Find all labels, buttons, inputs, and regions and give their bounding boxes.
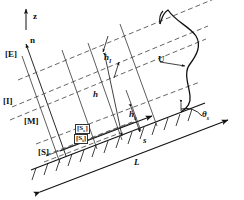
Si-close: ] (84, 134, 86, 142)
n-axis-label: n (30, 36, 35, 45)
theta-subscript: s (207, 115, 209, 121)
hs-dimension-label: hs (129, 110, 136, 121)
slope-surface-line (31, 103, 205, 170)
sublayer-box-Se: [Se] (75, 124, 90, 134)
hI-dimension-label: hI (104, 53, 111, 64)
layer-label-S: [S] (38, 148, 49, 157)
diagram-svg (0, 0, 244, 200)
figure-canvas: z n [E] [I] [M] [S] hI h hs U [Se] [Si] … (0, 0, 244, 200)
n-axis-arrow (26, 44, 66, 156)
velocity-label-U: U (158, 55, 165, 64)
layer-label-E: [E] (5, 50, 17, 59)
velocity-profile-curve (160, 10, 199, 112)
h-dimension-arrow (105, 56, 122, 136)
sublayer-box-Si: [Si] (74, 134, 88, 144)
normal-construction-lines (22, 24, 157, 163)
Se-close: ] (85, 124, 87, 132)
layer-label-M: [M] (24, 117, 39, 126)
slope-hatching (32, 109, 192, 180)
h-base: h (93, 89, 98, 99)
h-dimension-label: h (93, 90, 98, 99)
layer-label-I: [I] (3, 97, 13, 106)
z-axis-label: z (33, 12, 37, 21)
hs-subscript: s (134, 115, 136, 121)
slope-angle-label: θs (202, 110, 209, 121)
s-coordinate-label: s (143, 136, 147, 145)
hI-subscript: I (109, 58, 111, 64)
L-length-label: L (134, 158, 140, 167)
